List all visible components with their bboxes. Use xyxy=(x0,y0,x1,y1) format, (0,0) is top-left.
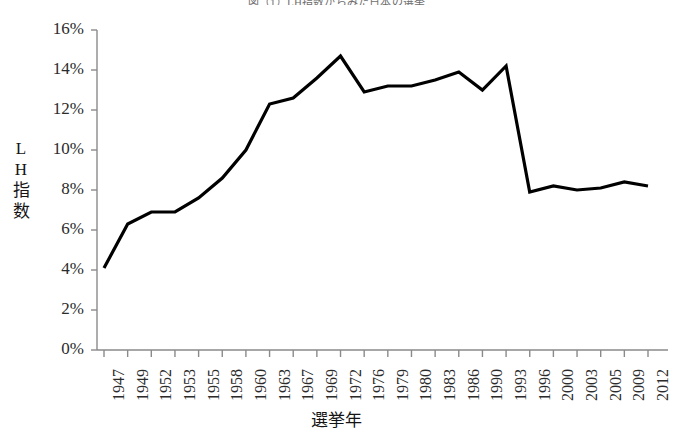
y-axis-tick-label: 14% xyxy=(28,59,84,79)
y-axis-tick-label: 0% xyxy=(28,339,84,359)
y-axis-ticks xyxy=(91,30,97,350)
x-axis-tick-label: 1969 xyxy=(323,369,341,401)
x-axis-tick-label: 1960 xyxy=(252,369,270,401)
y-axis-tick-label: 8% xyxy=(28,179,84,199)
plot-area xyxy=(0,0,673,432)
y-axis-tick-label: 10% xyxy=(28,139,84,159)
x-axis-tick-label: 1947 xyxy=(110,369,128,401)
x-axis-tick-label: 2003 xyxy=(583,369,601,401)
x-axis-tick-label: 1983 xyxy=(441,369,459,401)
x-axis-tick-label: 2012 xyxy=(654,369,672,401)
x-axis-ticks xyxy=(104,350,648,357)
x-axis-tick-label: 1980 xyxy=(417,369,435,401)
data-series-line xyxy=(104,56,648,268)
x-axis-tick-label: 1976 xyxy=(370,369,388,401)
x-axis-tick-label: 2009 xyxy=(630,369,648,401)
x-axis-tick-label: 1949 xyxy=(134,369,152,401)
y-axis-tick-label: 12% xyxy=(28,99,84,119)
x-axis-tick-label: 1979 xyxy=(394,369,412,401)
x-axis-tick-label: 1967 xyxy=(299,369,317,401)
y-axis-tick-label: 2% xyxy=(28,299,84,319)
x-axis-tick-label: 2005 xyxy=(607,369,625,401)
x-axis-tick-label: 1953 xyxy=(181,369,199,401)
y-axis-tick-label: 6% xyxy=(28,219,84,239)
y-axis-tick-label: 4% xyxy=(28,259,84,279)
x-axis-tick-label: 1972 xyxy=(347,369,365,401)
x-axis-tick-label: 1963 xyxy=(276,369,294,401)
x-axis-tick-label: 1952 xyxy=(157,369,175,401)
x-axis-tick-label: 1996 xyxy=(536,369,554,401)
x-axis-tick-label: 1955 xyxy=(205,369,223,401)
x-axis-tick-label: 1958 xyxy=(228,369,246,401)
chart-container: 図（1）LH指数からみた日本の選挙 L H 指 数 選挙年 0%2%4%6%8%… xyxy=(0,0,673,432)
x-axis-tick-label: 1993 xyxy=(512,369,530,401)
x-axis-tick-label: 2000 xyxy=(559,369,577,401)
y-axis-tick-label: 16% xyxy=(28,19,84,39)
x-axis-tick-label: 1986 xyxy=(465,369,483,401)
x-axis-tick-label: 1990 xyxy=(488,369,506,401)
